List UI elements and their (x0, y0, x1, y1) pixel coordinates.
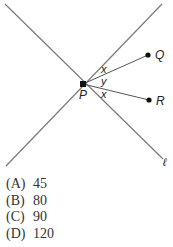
point-q-marker (145, 52, 150, 57)
label-line-l: ℓ (162, 156, 167, 168)
label-q: Q (155, 48, 164, 62)
point-r-marker (146, 97, 151, 102)
label-r: R (156, 94, 165, 108)
point-p-marker (80, 81, 86, 87)
ray-pr (83, 84, 149, 100)
choice-value: 45 (33, 176, 47, 191)
label-p: P (79, 88, 87, 102)
choice-letter: (C) (6, 209, 33, 226)
geometry-figure: P Q R ℓ x y x (0, 0, 173, 170)
choice-value: 90 (33, 209, 47, 224)
choice-d[interactable]: (D)120 (6, 226, 54, 243)
choice-letter: (B) (6, 193, 33, 210)
choice-value: 80 (33, 193, 47, 208)
choice-letter: (A) (6, 176, 33, 193)
answer-choices: (A)45 (B)80 (C)90 (D)120 (6, 176, 54, 242)
choice-c[interactable]: (C)90 (6, 209, 54, 226)
label-angle-x-bottom: x (100, 88, 107, 100)
label-angle-y: y (100, 75, 108, 87)
choice-b[interactable]: (B)80 (6, 193, 54, 210)
diagram-canvas: P Q R ℓ x y x (0, 0, 173, 170)
choice-letter: (D) (6, 226, 33, 243)
ray-pq (83, 55, 148, 84)
choice-value: 120 (33, 226, 54, 241)
choice-a[interactable]: (A)45 (6, 176, 54, 193)
label-angle-x-top: x (100, 63, 107, 75)
